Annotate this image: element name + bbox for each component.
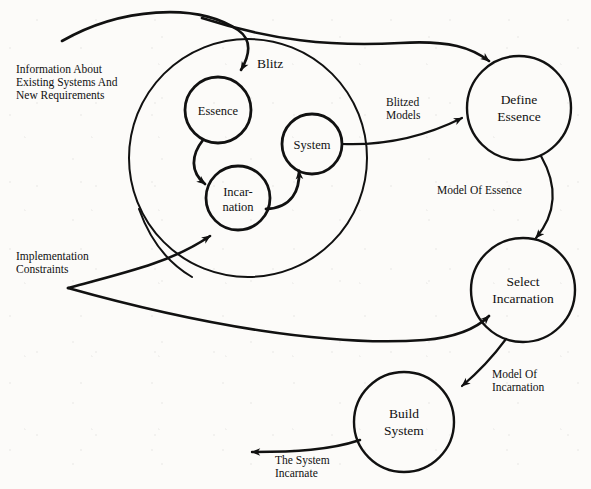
node-label-define-essence-line2: Essence	[497, 109, 540, 124]
io-label-information-line1: Information About	[16, 63, 103, 75]
io-label-information-line2: Existing Systems And	[16, 76, 118, 89]
edge-label-model-of-incarnation-line2: Incarnation	[492, 381, 545, 393]
io-label-implementation-constraints-line1: Implementation	[16, 250, 89, 263]
edge-define-essence-to-select-incarnation	[536, 156, 552, 238]
node-label-select-incarnation-line2: Incarnation	[492, 291, 554, 306]
diagram-canvas: Blitz Blitzed Models Model Of Essence Mo…	[0, 0, 591, 489]
edge-label-the-system-incarnate-line2: Incarnate	[275, 467, 318, 479]
edge-label-the-system-incarnate-line1: The System	[275, 454, 330, 467]
node-label-incarnation-line2: nation	[222, 200, 254, 214]
io-label-information-line3: New Requirements	[16, 89, 105, 102]
blitz-region-label: Blitz	[257, 56, 283, 71]
node-label-incarnation-line1: Incar-	[223, 185, 253, 199]
process-diagram: Blitz Blitzed Models Model Of Essence Mo…	[0, 0, 591, 489]
node-select-incarnation[interactable]	[471, 238, 575, 342]
node-label-system: System	[294, 138, 331, 152]
edge-label-blitzed-models-line1: Blitzed	[386, 96, 419, 108]
edge-system-to-define-essence	[342, 118, 462, 144]
edge-constraints-to-select-incarnation	[68, 288, 489, 341]
node-label-build-system-line1: Build	[389, 406, 419, 421]
node-label-essence: Essence	[198, 104, 239, 118]
io-label-implementation-constraints-line2: Constraints	[16, 263, 69, 275]
edge-essence-to-incarnation	[194, 140, 205, 184]
node-define-essence[interactable]	[467, 56, 571, 160]
edge-label-model-of-essence: Model Of Essence	[437, 184, 522, 196]
node-label-select-incarnation-line1: Select	[507, 274, 540, 289]
edge-label-model-of-incarnation-line1: Model Of	[492, 368, 537, 380]
node-label-define-essence-line1: Define	[501, 92, 538, 107]
edge-label-blitzed-models-line2: Models	[386, 109, 421, 121]
edge-input-to-essence	[62, 12, 248, 70]
node-label-build-system-line2: System	[384, 423, 424, 438]
blitz-region-boundary	[129, 39, 367, 277]
node-build-system[interactable]	[354, 372, 454, 472]
edge-build-system-to-output	[252, 440, 360, 452]
